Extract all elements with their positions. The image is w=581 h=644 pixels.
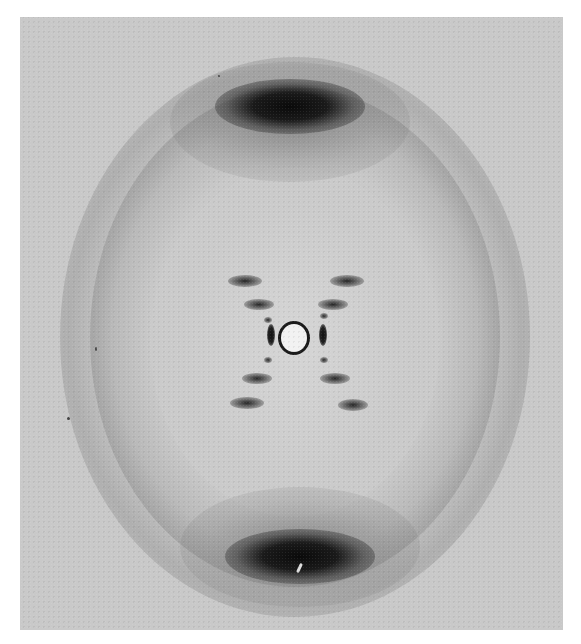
- diffraction-photo: [20, 17, 563, 630]
- film-grain: [20, 17, 563, 630]
